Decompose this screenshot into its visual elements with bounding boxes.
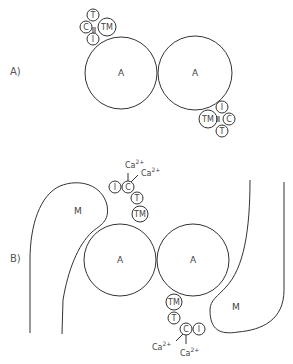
svg-text:C: C [125,183,131,192]
panel-b-complex-bottom: TM T C I Ca2+ Ca2+ [152,294,205,358]
svg-text:A: A [117,255,124,265]
panel-b-complex-top: I C T TM Ca2+ Ca2+ [109,158,160,222]
svg-text:I: I [221,103,223,112]
svg-text:M: M [232,302,240,312]
panel-a-actin-1: A [85,37,157,109]
panel-b-myosin-left: M [30,183,108,334]
svg-text:A: A [192,68,199,78]
panel-b-actin-2: A [157,224,229,296]
panel-a-complex-bottom-right: I C T TM [199,101,235,137]
svg-text:T: T [219,127,225,136]
svg-text:TM: TM [133,210,146,219]
calcium-ion: Ca2+ [152,340,171,352]
panel-a-complex-top-left: T C I TM [80,9,116,45]
svg-text:TM: TM [201,115,214,124]
svg-text:T: T [90,11,96,20]
svg-text:M: M [74,206,82,216]
svg-text:T: T [171,314,177,323]
calcium-ion: Ca2+ [180,346,199,358]
svg-text:I: I [114,183,116,192]
panel-b-label: B) [10,253,21,264]
diagram-canvas: A) A A T C I TM I C T TM B) M [0,0,293,364]
svg-text:I: I [198,325,200,334]
svg-text:TM: TM [167,298,180,307]
svg-text:A: A [118,68,125,78]
svg-text:A: A [190,255,197,265]
svg-text:T: T [134,194,140,203]
svg-text:C: C [226,115,232,124]
svg-text:C: C [83,23,89,32]
panel-a-label: A) [10,66,21,77]
svg-text:C: C [183,325,189,334]
calcium-ion: Ca2+ [141,166,160,178]
panel-b-myosin-right: M [210,180,284,333]
svg-text:TM: TM [100,23,113,32]
svg-text:I: I [92,35,94,44]
panel-a-actin-2: A [158,36,232,110]
panel-b-actin-1: A [84,224,156,296]
